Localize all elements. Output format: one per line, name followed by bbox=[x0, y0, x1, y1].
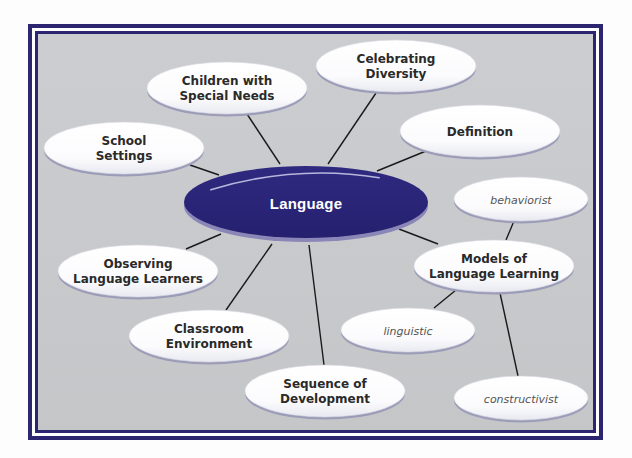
node-school[interactable] bbox=[44, 122, 204, 177]
concept-map-stage: Children withSpecial NeedsCelebratingDiv… bbox=[0, 0, 632, 458]
node-classroom[interactable] bbox=[129, 310, 289, 365]
node-definition[interactable] bbox=[400, 105, 560, 160]
node-sequence[interactable] bbox=[245, 365, 405, 420]
connector-center-to-observing bbox=[186, 234, 221, 249]
node-diversity[interactable] bbox=[316, 40, 476, 95]
node-body bbox=[454, 376, 588, 420]
node-linguistic[interactable] bbox=[341, 308, 475, 355]
node-body bbox=[44, 122, 204, 174]
connector-center-to-school bbox=[190, 165, 219, 175]
connector-models-to-constructivist bbox=[500, 293, 518, 376]
node-models[interactable] bbox=[414, 240, 574, 295]
node-children[interactable] bbox=[147, 62, 307, 117]
node-constructivist[interactable] bbox=[454, 376, 588, 423]
node-body bbox=[454, 177, 588, 221]
concept-map-graphic bbox=[0, 0, 632, 458]
node-behaviorist[interactable] bbox=[454, 177, 588, 224]
node-body bbox=[58, 245, 218, 297]
node-body bbox=[341, 308, 475, 352]
node-body bbox=[400, 105, 560, 157]
node-body bbox=[129, 310, 289, 362]
connector-models-to-behaviorist bbox=[506, 221, 514, 240]
connector-center-to-classroom bbox=[226, 244, 272, 310]
connector-center-to-diversity bbox=[328, 93, 376, 164]
node-body bbox=[245, 365, 405, 417]
node-body bbox=[147, 62, 307, 114]
node-body bbox=[414, 240, 574, 292]
connector-center-to-children bbox=[247, 114, 280, 164]
connector-center-to-sequence bbox=[309, 245, 324, 365]
center-body bbox=[184, 166, 428, 238]
connector-center-to-models bbox=[399, 229, 438, 244]
connector-models-to-linguistic bbox=[434, 290, 456, 308]
node-body bbox=[316, 40, 476, 92]
connector-center-to-definition bbox=[377, 151, 426, 171]
central-concept bbox=[184, 166, 428, 242]
node-language-center[interactable] bbox=[184, 166, 428, 242]
node-observing[interactable] bbox=[58, 245, 218, 300]
